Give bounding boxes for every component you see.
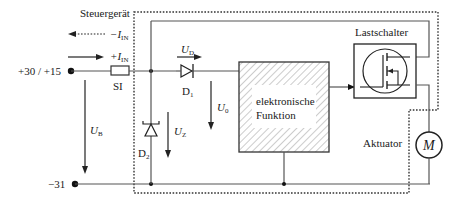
svg-text:Funktion: Funktion	[256, 109, 296, 121]
actuator-label: Aktuator	[363, 137, 402, 149]
load-switch-label: Lastschalter	[355, 26, 408, 38]
svg-text:+IIN: +IIN	[110, 50, 128, 64]
electronic-function-block: elektronische Funktion	[239, 62, 329, 152]
svg-text:U0: U0	[217, 101, 229, 115]
svg-text:elektronische: elektronische	[256, 95, 315, 107]
svg-text:UZ: UZ	[174, 125, 186, 139]
svg-text:−IIN: −IIN	[110, 28, 128, 42]
zener-diode-d2: D2	[138, 121, 159, 161]
load-switch	[354, 44, 416, 98]
supply-positive-label: +30 / +15	[18, 65, 61, 77]
battery-voltage-indicator: UB	[82, 80, 103, 174]
fuse-label: SI	[113, 80, 123, 92]
zener-voltage-indicator: UZ	[165, 112, 186, 158]
control-unit-title: Steuergerät	[80, 7, 130, 19]
current-positive-indicator: +IIN	[68, 50, 128, 64]
svg-text:UB: UB	[90, 124, 103, 138]
supply-ground-label: −31	[48, 178, 65, 190]
diode-voltage-indicator: UD	[177, 43, 202, 60]
supply-voltage-indicator: U0	[208, 81, 229, 130]
circuit-diagram: Steuergerät −IIN +IIN +30 / +15 SI UB −3…	[0, 0, 460, 203]
motor-actuator: M	[416, 132, 442, 158]
svg-text:D1: D1	[182, 85, 194, 99]
junction-node-block-ground	[282, 182, 286, 186]
svg-text:D2: D2	[138, 147, 150, 161]
svg-text:UD: UD	[181, 43, 194, 57]
current-negative-indicator: −IIN	[68, 28, 128, 42]
diode-d1: D1	[181, 64, 194, 99]
svg-text:M: M	[422, 138, 436, 153]
fuse	[111, 66, 129, 75]
